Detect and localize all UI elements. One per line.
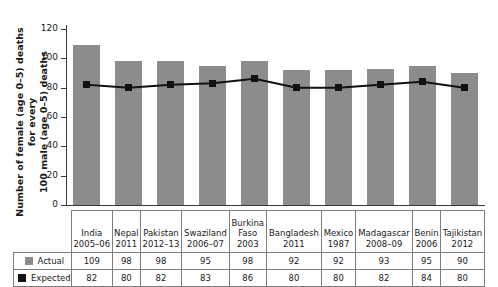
line-series-expected [66, 29, 485, 205]
table-cell-value: 80 [266, 270, 322, 287]
table-row: Expected82808283868080828480 [14, 270, 485, 287]
table-column-header: Swaziland 2006–07 [182, 211, 230, 253]
table-cell-value: 92 [266, 253, 322, 270]
table-cell-value: 93 [355, 253, 412, 270]
legend-swatch-icon [25, 257, 33, 265]
table-cell-value: 82 [140, 270, 181, 287]
y-tick-label: 100 [41, 52, 58, 62]
data-marker [377, 81, 384, 88]
table-header-row: India 2005–06Nepal 2011Pakistan 2012–13S… [14, 211, 485, 253]
table-cell-value: 83 [182, 270, 230, 287]
legend-swatch-icon [18, 274, 26, 282]
data-marker [167, 81, 174, 88]
legend-item-actual: Actual [14, 253, 72, 270]
table-row: Actual109989895989292939590 [14, 253, 485, 270]
table-column-header: India 2005–06 [71, 211, 112, 253]
y-tick-label: 40 [47, 140, 58, 150]
data-marker [461, 84, 468, 91]
plot-area: 020406080100120 [66, 29, 485, 205]
table-cell-value: 80 [112, 270, 140, 287]
legend-item-expected: Expected [14, 270, 72, 287]
table-cell-value: 90 [440, 253, 484, 270]
table-column-header: Nepal 2011 [112, 211, 140, 253]
table-cell-value: 86 [229, 270, 266, 287]
table-cell-value: 92 [322, 253, 356, 270]
table-cell-value: 82 [71, 270, 112, 287]
legend-label: Actual [38, 256, 65, 266]
table-cell-value: 80 [440, 270, 484, 287]
y-tick-label: 80 [47, 82, 58, 92]
data-marker [209, 80, 216, 87]
table-cell-value: 109 [71, 253, 112, 270]
table-cell-value: 84 [413, 270, 441, 287]
y-tick-mark [61, 205, 66, 206]
table-cell-value: 82 [355, 270, 412, 287]
table-column-header: Madagascar 2008–09 [355, 211, 412, 253]
table-column-header: Pakistan 2012–13 [140, 211, 181, 253]
table-cell-value: 98 [140, 253, 181, 270]
table-cell-value: 95 [182, 253, 230, 270]
table-cell-value: 98 [229, 253, 266, 270]
data-marker [251, 75, 258, 82]
table-column-header: Bangladesh 2011 [266, 211, 322, 253]
x-axis-line [66, 205, 485, 206]
table-cell-value: 95 [413, 253, 441, 270]
y-tick-label: 20 [47, 170, 58, 180]
y-tick-label: 60 [47, 111, 58, 121]
legend-label: Expected [31, 273, 71, 283]
data-table: India 2005–06Nepal 2011Pakistan 2012–13S… [13, 210, 485, 287]
table-cell-value: 80 [322, 270, 356, 287]
data-marker [83, 81, 90, 88]
data-marker [125, 84, 132, 91]
y-tick: 0 [66, 205, 67, 206]
expected-line-path [87, 79, 464, 88]
data-marker [419, 78, 426, 85]
table-cell-value: 98 [112, 253, 140, 270]
table-column-header: Burkina Faso 2003 [229, 211, 266, 253]
data-marker [293, 84, 300, 91]
y-tick-label: 0 [52, 199, 58, 209]
table-corner-cell [14, 211, 72, 253]
table-column-header: Mexico 1987 [322, 211, 356, 253]
table-column-header: Benin 2006 [413, 211, 441, 253]
table-column-header: Tajikistan 2012 [440, 211, 484, 253]
data-marker [335, 84, 342, 91]
y-tick-label: 120 [41, 23, 58, 33]
